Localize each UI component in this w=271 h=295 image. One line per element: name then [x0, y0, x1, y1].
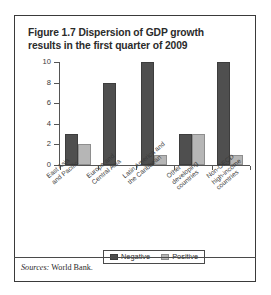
figure-title: Figure 1.7 Dispersion of GDP growth resu… — [28, 26, 246, 52]
bar-positive — [78, 144, 91, 165]
figure-container: Figure 1.7 Dispersion of GDP growth resu… — [0, 0, 271, 295]
bar-group — [174, 62, 212, 165]
bar-negative — [217, 62, 230, 165]
x-axis-tick — [250, 166, 251, 170]
x-axis-category-labels: East Asiaand PacificEurope andCentral As… — [15, 172, 271, 232]
y-axis-tick-label: 2 — [15, 140, 51, 148]
y-axis-tick-label: 4 — [15, 120, 51, 128]
y-axis-tick-label: 10 — [15, 58, 51, 66]
bar-group — [212, 62, 250, 165]
figure-title-line-1: Figure 1.7 Dispersion of GDP growth — [28, 26, 246, 39]
y-axis-tick-label: 6 — [15, 99, 51, 107]
y-axis-tick-label: 8 — [15, 79, 51, 87]
source-note: Sources: World Bank. — [21, 263, 93, 273]
figure-frame: Figure 1.7 Dispersion of GDP growth resu… — [14, 15, 256, 282]
source-label: Sources: — [21, 263, 49, 272]
figure-title-line-2: results in the first quarter of 2009 — [28, 39, 246, 52]
plot-area: 0246810 — [15, 58, 254, 170]
y-axis-tick-label: 0 — [15, 161, 51, 169]
source-divider — [14, 257, 256, 258]
source-value: World Bank. — [49, 263, 93, 272]
bar-group — [60, 62, 98, 165]
bar-group — [98, 62, 136, 165]
